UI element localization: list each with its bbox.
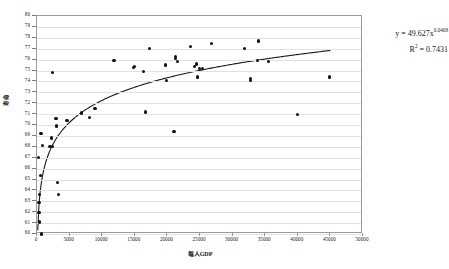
- data-point: [39, 174, 42, 177]
- y-axis-tick: [32, 211, 36, 212]
- y-axis-label: 77: [0, 45, 30, 50]
- gridline-y: [37, 38, 361, 39]
- r2-value: = 0.7431: [419, 44, 448, 53]
- y-axis-tick: [32, 91, 36, 92]
- gridline-y: [37, 158, 361, 159]
- y-axis-label: 72: [0, 100, 30, 105]
- y-axis-tick: [32, 135, 36, 136]
- y-axis-tick: [32, 179, 36, 180]
- y-axis-tick: [32, 200, 36, 201]
- gridline-y: [37, 92, 361, 93]
- data-point: [148, 47, 151, 50]
- y-axis-label: 78: [0, 34, 30, 39]
- data-point: [39, 132, 42, 135]
- gridline-y: [37, 49, 361, 50]
- y-axis-tick: [32, 189, 36, 190]
- x-axis-title: 每人GDP: [0, 249, 400, 258]
- gridline-y: [37, 147, 361, 148]
- y-axis-label: 65: [0, 176, 30, 181]
- y-axis-label: 75: [0, 67, 30, 72]
- y-axis-label: 73: [0, 89, 30, 94]
- data-point: [93, 107, 96, 110]
- data-point: [172, 130, 175, 133]
- data-point: [38, 220, 41, 223]
- y-axis-label: 76: [0, 56, 30, 61]
- data-point: [80, 111, 83, 114]
- y-axis-label: 79: [0, 23, 30, 28]
- equation-text: y = 49.627x: [395, 29, 434, 38]
- y-axis-label: 66: [0, 165, 30, 170]
- y-axis-label: 62: [0, 209, 30, 214]
- y-axis-tick: [32, 102, 36, 103]
- y-axis-tick: [32, 222, 36, 223]
- y-axis-tick: [32, 124, 36, 125]
- gridline-y: [37, 212, 361, 213]
- y-axis-tick: [32, 157, 36, 158]
- data-point: [88, 116, 91, 119]
- data-point: [257, 39, 260, 42]
- y-axis-tick: [32, 168, 36, 169]
- gridline-y: [37, 81, 361, 82]
- data-point: [37, 201, 40, 204]
- y-axis-label: 69: [0, 132, 30, 137]
- y-axis-tick: [32, 26, 36, 27]
- gridline-y: [37, 27, 361, 28]
- y-axis-label: 71: [0, 111, 30, 116]
- data-point: [112, 59, 115, 62]
- gridline-y: [37, 103, 361, 104]
- y-axis-tick: [32, 15, 36, 16]
- r2-superscript: 2: [415, 43, 418, 49]
- y-axis-tick: [32, 146, 36, 147]
- y-axis-label: 60: [0, 230, 30, 235]
- y-axis-tick: [32, 80, 36, 81]
- data-point: [54, 117, 57, 120]
- data-point: [65, 119, 68, 122]
- gridline-y: [37, 114, 361, 115]
- scatter-chart: 寿命 每人GDP y = 49.627x0.0408 R2 = 0.7431 6…: [0, 0, 449, 269]
- y-axis-label: 80: [0, 12, 30, 17]
- data-point: [164, 63, 167, 66]
- data-point: [37, 211, 40, 214]
- y-axis-tick: [32, 70, 36, 71]
- data-point: [196, 75, 199, 78]
- trendline-equation: y = 49.627x0.0408: [372, 24, 448, 40]
- y-axis-tick: [32, 59, 36, 60]
- data-point: [142, 70, 145, 73]
- y-axis-tick: [32, 113, 36, 114]
- data-point: [328, 75, 331, 78]
- plot-area: [36, 15, 362, 233]
- data-point: [50, 136, 53, 139]
- y-axis-label: 64: [0, 187, 30, 192]
- trendline-annotation: y = 49.627x0.0408 R2 = 0.7431: [372, 24, 448, 55]
- data-point: [144, 110, 147, 113]
- gridline-y: [37, 136, 361, 137]
- data-point: [249, 79, 252, 82]
- gridline-y: [37, 201, 361, 202]
- data-point: [55, 124, 58, 127]
- gridline-y: [37, 169, 361, 170]
- y-axis-tick: [32, 37, 36, 38]
- y-axis-label: 67: [0, 154, 30, 159]
- x-axis-label: 50000: [342, 236, 382, 242]
- gridline-y: [37, 71, 361, 72]
- y-axis-tick: [32, 48, 36, 49]
- y-axis-label: 61: [0, 220, 30, 225]
- y-axis-label: 68: [0, 143, 30, 148]
- equation-exponent: 0.0408: [434, 27, 448, 33]
- data-point: [195, 62, 198, 65]
- y-axis-label: 74: [0, 78, 30, 83]
- gridline-y: [37, 60, 361, 61]
- trendline-r2: R2 = 0.7431: [372, 40, 448, 56]
- gridline-y: [37, 180, 361, 181]
- gridline-y: [37, 190, 361, 191]
- y-axis-label: 70: [0, 121, 30, 126]
- y-axis-label: 63: [0, 198, 30, 203]
- gridline-y: [37, 125, 361, 126]
- gridline-y: [37, 223, 361, 224]
